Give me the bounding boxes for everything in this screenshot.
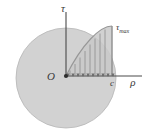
figure-container: τ ρ O c τmax	[0, 0, 150, 135]
vertical-axis-label: τ	[61, 2, 66, 14]
max-stress-label-subscript: max	[119, 28, 129, 34]
origin-point-marker	[64, 74, 68, 78]
stress-distribution-diagram: τ ρ O c τmax	[0, 0, 150, 135]
max-stress-label: τmax	[116, 22, 130, 34]
outer-radius-label: c	[110, 78, 114, 88]
origin-label: O	[47, 70, 55, 82]
horizontal-axis-label: ρ	[129, 76, 135, 88]
